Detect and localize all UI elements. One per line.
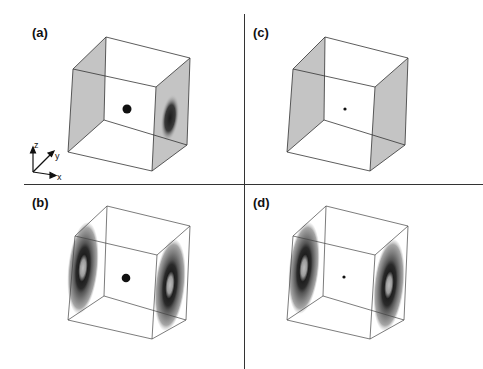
figure-canvas: z y x xyxy=(0,0,483,369)
right-wall-rings xyxy=(150,238,189,333)
axis-label-z: z xyxy=(34,140,39,150)
panel-a-cube xyxy=(68,37,190,171)
left-wall xyxy=(287,37,325,152)
central-dot-large xyxy=(123,105,132,114)
right-wall-rings xyxy=(369,238,408,333)
axis-label-x: x xyxy=(57,172,62,182)
central-dot-small xyxy=(343,107,346,110)
central-dot-small xyxy=(342,275,345,278)
panel-d-cube xyxy=(284,206,408,339)
panel-b-cube xyxy=(63,206,190,339)
left-wall-rings xyxy=(284,221,323,316)
axes-triad xyxy=(31,147,57,178)
panel-c-cube xyxy=(287,37,408,171)
axis-label-y: y xyxy=(55,151,60,161)
central-dot-large xyxy=(122,274,131,283)
